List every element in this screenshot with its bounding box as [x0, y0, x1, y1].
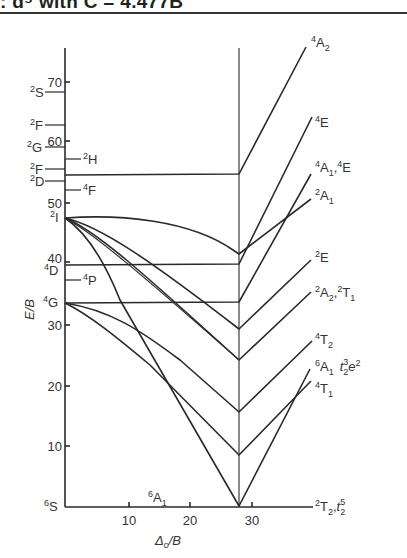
svg-text:4A1,4E: 4A1,4E — [315, 159, 351, 178]
svg-text:6A1t23e2: 6A1t23e2 — [315, 357, 361, 377]
strong-field-terms: 4A2 4E 4A1,4E 2A1 2E 2A2,2T1 4T2 6A1t23e… — [311, 34, 361, 517]
svg-text:4T1: 4T1 — [315, 380, 333, 399]
svg-text:2H: 2H — [83, 151, 97, 167]
svg-text:6S: 6S — [44, 498, 58, 514]
svg-text:4E: 4E — [315, 114, 329, 130]
svg-text:4T2: 4T2 — [315, 331, 333, 350]
svg-text:2G: 2G — [27, 139, 42, 155]
y-axis-label: E/B — [22, 299, 37, 320]
svg-text:2A2,2T1: 2A2,2T1 — [315, 284, 355, 303]
svg-text:4A2: 4A2 — [311, 34, 330, 53]
svg-text:4D: 4D — [44, 262, 58, 278]
x-axis-label: Δo/B — [154, 533, 181, 550]
svg-text:2S: 2S — [30, 84, 44, 100]
tanabe-sugano-chart: 10 20 30 40 50 60 70 10 20 30 Δo/B E/B 2… — [0, 0, 407, 558]
svg-text:30: 30 — [245, 513, 259, 528]
svg-text:2E: 2E — [315, 249, 329, 265]
svg-text:60: 60 — [48, 134, 62, 149]
svg-text:10: 10 — [122, 513, 136, 528]
svg-text:20: 20 — [183, 513, 197, 528]
svg-text:20: 20 — [48, 379, 62, 394]
svg-text:6A1: 6A1 — [148, 489, 167, 508]
svg-text:70: 70 — [48, 75, 62, 90]
svg-text:2D: 2D — [30, 173, 44, 189]
svg-text:4G: 4G — [43, 294, 58, 310]
svg-text:2A1: 2A1 — [315, 187, 334, 206]
series-2A1 — [65, 199, 311, 254]
svg-text:4F: 4F — [83, 182, 96, 198]
svg-text:2F: 2F — [30, 117, 43, 133]
svg-text:2I: 2I — [50, 209, 59, 225]
series-2T2 — [65, 218, 310, 506]
svg-text:30: 30 — [48, 318, 62, 333]
svg-text:2T2,t25: 2T2,t25 — [315, 497, 345, 517]
series-4T2 — [65, 303, 312, 412]
svg-text:4P: 4P — [83, 272, 97, 288]
series-4A2 — [65, 47, 306, 175]
svg-text:10: 10 — [48, 439, 62, 454]
